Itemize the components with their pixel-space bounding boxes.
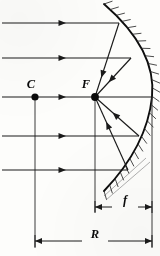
- reflected-ray-1: [95, 23, 119, 97]
- mirror-hatch-stroke: [149, 113, 156, 119]
- mirror-ray-diagram: C F f R: [0, 0, 160, 256]
- figure-root: C F f R: [0, 0, 160, 256]
- mirror-hatch-stroke: [110, 7, 119, 10]
- ray-2-arrowhead: [59, 55, 67, 61]
- radius-dimension-right-arrowhead: [145, 238, 152, 244]
- reflected-ray-1-arrowhead: [101, 70, 107, 78]
- label-focal-point: F: [81, 77, 91, 91]
- reflected-ray-5: [95, 97, 128, 170]
- label-radius-of-curvature: R: [90, 227, 99, 241]
- label-center-of-curvature: C: [27, 77, 36, 91]
- ray-4-arrowhead: [59, 133, 67, 139]
- mirror-hatch-stroke: [152, 88, 160, 92]
- label-focal-length: f: [123, 193, 129, 207]
- mirror-hatch-stroke: [116, 13, 125, 15]
- mirror-hatch-stroke: [138, 144, 143, 151]
- mirror-hatch-stroke: [134, 151, 139, 159]
- focal-length-dimension-right-arrowhead: [145, 204, 152, 210]
- mirror-hatch-stroke: [122, 20, 131, 22]
- ray-5-arrowhead: [59, 167, 67, 173]
- guide-lines: [35, 97, 152, 248]
- ray-axis-arrowhead: [59, 94, 67, 100]
- incoming-parallel-rays: [2, 20, 152, 173]
- focal-length-dimension-left-arrowhead: [95, 204, 102, 210]
- focal-point: [91, 93, 99, 101]
- ray-1-arrowhead: [59, 20, 67, 26]
- mirror-hatch-stroke: [104, 1, 112, 4]
- mirror-hatch-stroke: [145, 129, 151, 136]
- radius-dimension-left-arrowhead: [35, 238, 42, 244]
- mirror-hatch-stroke: [120, 172, 123, 180]
- mirror-hatch-stroke: [142, 136, 147, 143]
- center-of-curvature-point: [31, 93, 38, 100]
- mirror-hatch-stroke: [127, 26, 136, 27]
- mirror-hatch-stroke: [130, 158, 134, 166]
- mirror-hatch-stroke: [152, 96, 159, 101]
- mirror-hatch-stroke: [132, 33, 141, 34]
